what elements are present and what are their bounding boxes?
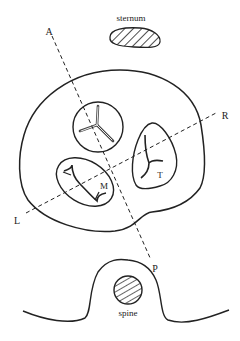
diagram-canvas: sternum T M A P [0,0,240,341]
tricuspid-valve: T [132,123,176,189]
spine: spine [23,259,229,322]
heart-outline [20,70,205,231]
axis-label-anterior: A [45,26,53,37]
spine-label: spine [119,308,138,318]
aortic-valve [73,102,123,152]
sternum-label: sternum [117,13,146,23]
spine-shape [114,276,142,304]
heart-cross-section-diagram: sternum T M A P [0,0,240,341]
axis-label-left: L [14,215,20,226]
axis-left-right: L R [14,110,229,226]
mitral-label: M [100,181,108,191]
axis-anterior-posterior: A P [45,26,158,274]
tricuspid-label: T [157,170,163,180]
sternum: sternum [110,13,160,47]
sternum-shape [110,28,160,48]
axis-label-posterior: P [152,263,158,274]
axis-label-right: R [222,110,229,121]
